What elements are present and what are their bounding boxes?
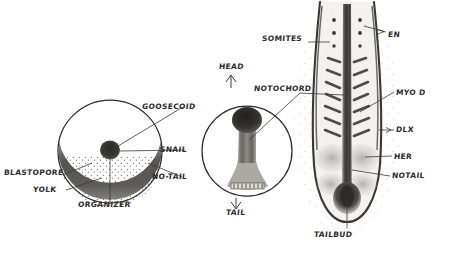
label-notochord: NOTOCHORD — [254, 84, 312, 93]
label-organizer: ORGANIZER — [78, 200, 132, 209]
label-somites: SOMITES — [262, 34, 303, 43]
label-her: HER — [394, 152, 413, 161]
panel-segmented-embryo — [293, 2, 401, 238]
base-hatch-band — [231, 183, 264, 189]
label-snail: SNAIL — [160, 145, 188, 154]
label-blastopore: BLASTOPORE — [4, 168, 64, 177]
label-tail: TAIL — [226, 208, 246, 217]
label-yolk: YOLK — [33, 185, 57, 194]
label-goosecoid: GOOSECOID — [142, 102, 196, 111]
panel-blastula — [58, 100, 185, 208]
label-no-tail: NO-TAIL — [152, 172, 188, 181]
panel-gastrula — [202, 75, 300, 209]
label-myo-d: MYO D — [396, 88, 427, 97]
diagram-canvas: BLASTOPORE YOLK ORGANIZER GOOSECOID SNAI… — [0, 0, 451, 255]
label-tailbud: TAILBUD — [314, 230, 353, 239]
head-arrow-icon — [226, 75, 236, 88]
label-dlx: DLX — [396, 125, 415, 134]
label-notail: NOTAIL — [392, 171, 426, 180]
label-head: HEAD — [219, 62, 245, 71]
prechordal-head-blob — [232, 107, 262, 133]
label-en: EN — [388, 30, 401, 39]
